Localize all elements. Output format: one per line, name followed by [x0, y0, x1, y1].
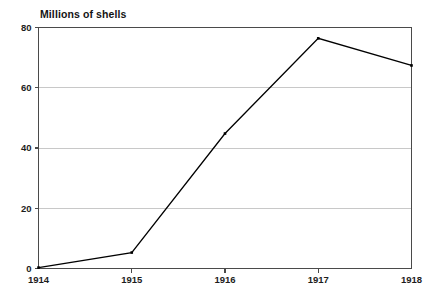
line-chart-plot: 020406080 19141915191619171918 [0, 0, 431, 300]
data-point-1914 [37, 266, 40, 269]
data-series-line [39, 38, 412, 267]
data-point-1917 [317, 37, 320, 40]
y-tick-label-20: 20 [21, 203, 32, 214]
x-tick-label-1915: 1915 [121, 274, 143, 285]
data-point-1918 [410, 64, 413, 67]
series-line-millions-of-shells [39, 38, 412, 267]
y-tick-labels: 020406080 [21, 22, 32, 274]
data-point-1915 [130, 251, 133, 254]
y-tick-label-40: 40 [21, 142, 32, 153]
data-point-1916 [224, 132, 227, 135]
data-point-markers [37, 37, 413, 269]
x-tick-labels: 19141915191619171918 [28, 274, 422, 285]
chart-container: Millions of shells 020406080 19141915191… [0, 0, 431, 300]
x-tick-label-1916: 1916 [214, 274, 235, 285]
x-tick-label-1918: 1918 [401, 274, 422, 285]
x-tick-label-1917: 1917 [308, 274, 329, 285]
y-tick-label-80: 80 [21, 22, 32, 33]
gridlines [39, 88, 412, 209]
x-tick-label-1914: 1914 [28, 274, 50, 285]
y-tick-label-0: 0 [26, 263, 31, 274]
y-tick-label-60: 60 [21, 82, 32, 93]
axes [35, 28, 412, 273]
